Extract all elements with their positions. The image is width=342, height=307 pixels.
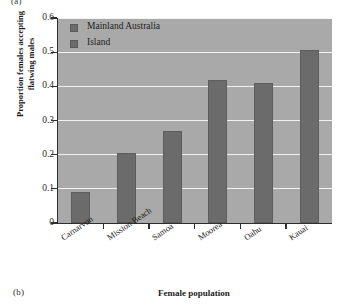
legend-label: Island bbox=[87, 37, 110, 47]
legend-label: Mainland Australia bbox=[87, 21, 160, 31]
y-axis-tick-label: 0.1 bbox=[24, 183, 54, 193]
plot-area-frame: Mainland AustraliaIsland bbox=[57, 18, 332, 224]
x-axis-category-label: Samoa bbox=[150, 221, 175, 242]
plot-area bbox=[58, 18, 332, 223]
legend-swatch bbox=[70, 24, 78, 32]
panel-label-b: (b) bbox=[13, 287, 24, 297]
x-axis-category-label: Oahu bbox=[242, 224, 263, 243]
y-axis-tick-label: 0.4 bbox=[24, 80, 54, 90]
bar bbox=[300, 50, 319, 223]
x-axis-tick-mark bbox=[148, 224, 149, 229]
x-axis-tick-mark bbox=[194, 224, 195, 229]
x-axis-title: Female population bbox=[57, 288, 331, 298]
x-axis-tick-mark bbox=[103, 224, 104, 229]
x-axis-tick-mark bbox=[240, 224, 241, 229]
gridline bbox=[58, 120, 332, 121]
bar bbox=[163, 131, 182, 223]
figure-panel-b-bar-chart: (a) Proportion females accepting flatwin… bbox=[0, 0, 342, 307]
bar bbox=[117, 153, 136, 223]
bar bbox=[208, 80, 227, 224]
y-axis-tick-label: 0.6 bbox=[24, 12, 54, 22]
gridline bbox=[58, 52, 332, 53]
bar bbox=[254, 83, 273, 223]
gridline bbox=[58, 154, 332, 155]
x-axis-category-label: Kauai bbox=[287, 223, 310, 243]
x-axis-tick-mark bbox=[285, 224, 286, 229]
gridline bbox=[58, 18, 332, 19]
gridline bbox=[58, 188, 332, 189]
gridline bbox=[58, 86, 332, 87]
y-axis-tick-label: 0 bbox=[24, 217, 54, 227]
y-axis-tick-label: 0.2 bbox=[24, 149, 54, 159]
y-axis-tick-label: 0.5 bbox=[24, 46, 54, 56]
y-axis-tick-label: 0.3 bbox=[24, 115, 54, 125]
legend-swatch bbox=[70, 40, 78, 48]
